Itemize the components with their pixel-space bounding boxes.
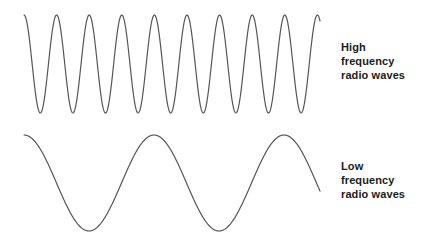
low-frequency-label-line-3: radio waves [341, 187, 405, 201]
high-frequency-label: High frequency radio waves [341, 40, 405, 82]
high-frequency-label-line-3: radio waves [341, 68, 405, 82]
low-frequency-label: Low frequency radio waves [341, 159, 405, 201]
high-frequency-label-line-2: frequency [341, 54, 405, 68]
low-frequency-label-line-1: Low [341, 159, 405, 173]
high-frequency-label-line-1: High [341, 40, 405, 54]
low-frequency-label-line-2: frequency [341, 173, 405, 187]
waveform-illustration [0, 0, 422, 244]
high-frequency-waveform [24, 15, 320, 113]
low-frequency-waveform [24, 135, 320, 231]
diagram-canvas: High frequency radio waves Low frequency… [0, 0, 422, 244]
